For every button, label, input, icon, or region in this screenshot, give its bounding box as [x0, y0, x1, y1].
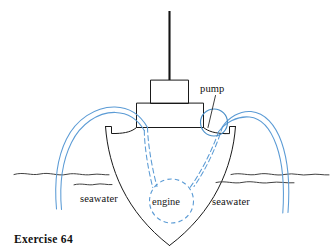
engine-feed-pipe-left	[144, 128, 157, 188]
gunwale-left	[106, 127, 117, 134]
boat-cross-section-diagram: pump engine seawater seawater Exercise 6…	[0, 0, 334, 252]
figure-caption: Exercise 64	[14, 233, 73, 245]
lower-cabin	[137, 104, 204, 128]
waterline-right	[216, 174, 329, 183]
figure-container: pump engine seawater seawater Exercise 6…	[0, 0, 334, 252]
seawater-label-left: seawater	[80, 193, 118, 204]
pump-label: pump	[200, 83, 225, 94]
seawater-label-right: seawater	[212, 196, 250, 207]
upper-cabin	[151, 81, 189, 104]
waterline-left	[14, 173, 112, 184]
engine-label: engine	[152, 196, 180, 207]
deck	[116, 128, 225, 134]
pump-leader-line	[208, 96, 216, 128]
